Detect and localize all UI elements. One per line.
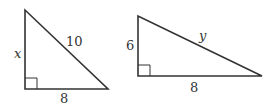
triangle-right: 6 y 8 [126, 16, 262, 95]
label-hypotenuse-10: 10 [66, 34, 83, 49]
triangle-left-outline [25, 10, 108, 89]
triangle-left: x 10 8 [14, 10, 108, 106]
label-base-8-left: 8 [60, 91, 68, 106]
label-leg-x: x [14, 46, 22, 61]
triangle-right-outline [138, 16, 262, 76]
right-angle-marker-left [25, 78, 37, 89]
label-leg-6: 6 [126, 38, 134, 53]
label-base-8-right: 8 [190, 80, 198, 95]
label-hypotenuse-y: y [198, 28, 207, 43]
right-angle-marker-right [138, 65, 150, 76]
diagram-canvas: x 10 8 6 y 8 [0, 0, 272, 107]
